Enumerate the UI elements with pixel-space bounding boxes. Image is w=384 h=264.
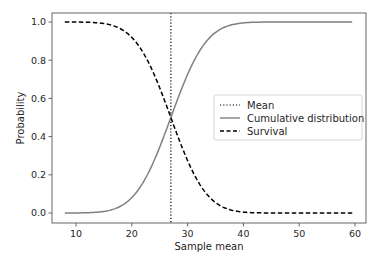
x-tick-label: 60 [349,228,361,239]
x-tick-label: 20 [126,228,138,239]
x-axis-ticks: 102030405060 [70,223,361,239]
y-tick-label: 0.2 [31,169,46,180]
y-tick-label: 0.4 [31,131,46,142]
y-tick-label: 0.6 [31,93,46,104]
x-tick-label: 40 [237,228,249,239]
x-tick-label: 50 [293,228,305,239]
y-axis-ticks: 0.00.20.40.60.81.0 [31,16,52,218]
legend: Mean Cumulative distribution Survival [214,95,364,140]
legend-survival-label: Survival [247,126,287,137]
y-tick-label: 0.8 [31,55,46,66]
x-tick-label: 10 [70,228,82,239]
legend-cdf-label: Cumulative distribution [247,113,364,124]
x-tick-label: 30 [182,228,194,239]
y-tick-label: 1.0 [31,16,46,27]
y-tick-label: 0.0 [31,207,46,218]
legend-mean-label: Mean [247,100,274,111]
y-axis-label: Probability [15,91,26,144]
chart: 102030405060 0.00.20.40.60.81.0 Sample m… [0,0,384,264]
x-axis-label: Sample mean [174,241,243,252]
